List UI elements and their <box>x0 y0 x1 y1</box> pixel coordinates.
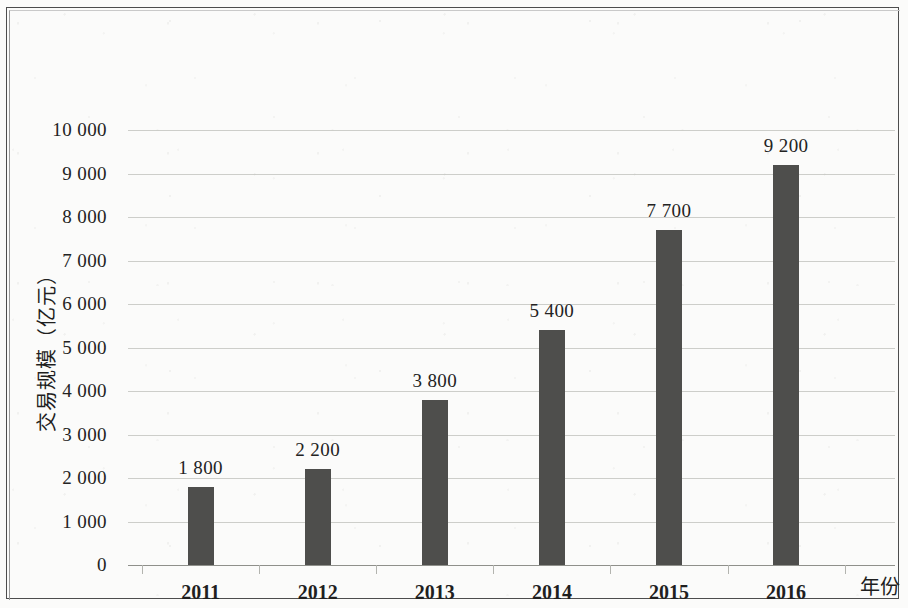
x-axis-tick <box>259 565 260 574</box>
bar-value-label: 2 200 <box>295 439 340 461</box>
x-axis-tick <box>376 565 377 574</box>
bar-value-label: 5 400 <box>530 300 575 322</box>
y-axis-tick-label: 6 000 <box>0 293 107 315</box>
y-axis-tick-label: 4 000 <box>0 380 107 402</box>
x-axis-tick <box>142 565 143 574</box>
x-axis-tick-label: 2012 <box>298 581 338 604</box>
bar-value-label: 1 800 <box>178 457 223 479</box>
bar <box>773 165 799 565</box>
bar <box>422 400 448 565</box>
plot-area: 01 0002 0003 0004 0005 0006 0007 0008 00… <box>128 130 895 565</box>
x-axis-tick-label: 2014 <box>532 581 572 604</box>
x-axis-line <box>128 565 895 566</box>
y-axis-tick-label: 10 000 <box>0 119 107 141</box>
x-axis-tick <box>728 565 729 574</box>
bar <box>656 230 682 565</box>
bar <box>188 487 214 565</box>
y-axis-tick-label: 9 000 <box>0 163 107 185</box>
y-axis-tick-label: 1 000 <box>0 511 107 533</box>
bar-value-label: 3 800 <box>412 370 457 392</box>
x-axis-tick <box>610 565 611 574</box>
y-axis-tick-label: 3 000 <box>0 424 107 446</box>
chart-figure: 交易规模（亿元） 年份 01 0002 0003 0004 0005 0006 … <box>0 0 908 608</box>
x-axis-tick-label: 2016 <box>766 581 806 604</box>
y-axis-tick-label: 5 000 <box>0 337 107 359</box>
y-axis-tick-label: 8 000 <box>0 206 107 228</box>
x-axis-tick-label: 2015 <box>649 581 689 604</box>
x-axis-tick-label: 2013 <box>415 581 455 604</box>
gridline <box>128 130 895 131</box>
x-axis-title: 年份 <box>860 571 900 600</box>
bar <box>305 469 331 565</box>
bar <box>539 330 565 565</box>
bar-value-label: 7 700 <box>647 200 692 222</box>
y-axis-tick-label: 7 000 <box>0 250 107 272</box>
bar-value-label: 9 200 <box>764 135 809 157</box>
x-axis-tick <box>845 565 846 574</box>
x-axis-tick-label: 2011 <box>181 581 220 604</box>
y-axis-tick-label: 2 000 <box>0 467 107 489</box>
y-axis-tick-label: 0 <box>0 554 107 576</box>
x-axis-tick <box>493 565 494 574</box>
